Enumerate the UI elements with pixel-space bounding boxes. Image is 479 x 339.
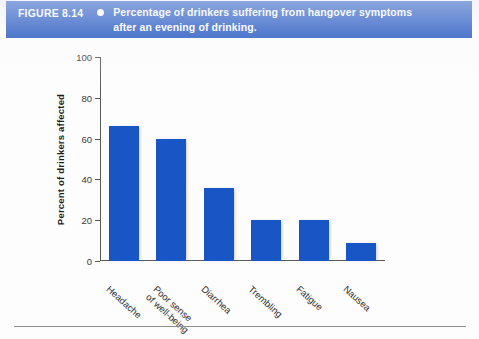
- y-axis-tick-label: 40: [81, 174, 92, 185]
- x-axis-line: [100, 260, 385, 261]
- x-axis-label: Headache: [104, 284, 143, 321]
- y-axis-tick: [95, 220, 100, 221]
- figure-number: FIGURE 8.14: [18, 5, 83, 20]
- y-axis-title: Percent of drinkers affected: [54, 57, 68, 261]
- x-axis-label: Diarrhea: [199, 284, 233, 316]
- bar: [251, 220, 281, 261]
- y-axis-tick: [95, 57, 100, 58]
- plot-area: 020406080100 HeadachePoor senseof well-b…: [100, 57, 385, 261]
- figure-caption-line2: after an evening of drinking.: [113, 20, 412, 35]
- bar: [299, 220, 329, 261]
- y-axis-tick-label: 0: [87, 256, 92, 267]
- y-axis-tick: [95, 139, 100, 140]
- y-axis-tick-label: 80: [81, 92, 92, 103]
- figure-page: FIGURE 8.14 Percentage of drinkers suffe…: [0, 0, 479, 339]
- figure-caption-text: Percentage of drinkers suffering from ha…: [113, 5, 412, 34]
- figure-caption-line1: Percentage of drinkers suffering from ha…: [113, 6, 412, 18]
- bar: [156, 139, 186, 261]
- bar: [109, 126, 139, 261]
- x-axis-label: Nausea: [341, 284, 372, 314]
- x-axis-label: Poor senseof well-being: [144, 284, 198, 335]
- figure-caption-banner: FIGURE 8.14 Percentage of drinkers suffe…: [6, 1, 472, 38]
- x-axis-label: Trembling: [246, 284, 284, 320]
- bar: [204, 188, 234, 261]
- y-axis-tick-label: 60: [81, 133, 92, 144]
- x-axis-label: Fatigue: [294, 284, 325, 313]
- bullet-dot-icon: [97, 9, 104, 16]
- y-axis-tick: [95, 179, 100, 180]
- page-divider-rule: [14, 326, 466, 327]
- bar-chart: Percent of drinkers affected 02040608010…: [0, 38, 479, 303]
- y-axis-tick-label: 100: [76, 52, 92, 63]
- y-axis-tick: [95, 261, 100, 262]
- bar: [346, 243, 376, 261]
- y-axis-tick-label: 20: [81, 215, 92, 226]
- y-axis-line: [100, 57, 101, 261]
- y-axis-tick: [95, 98, 100, 99]
